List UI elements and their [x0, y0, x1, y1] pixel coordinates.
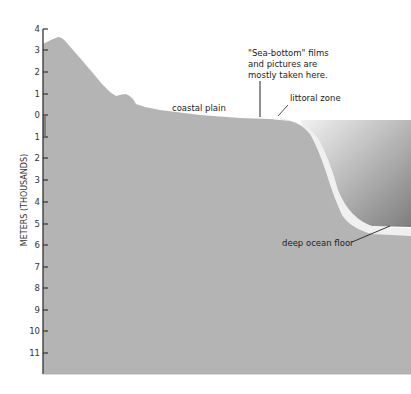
label-deep-ocean-floor: deep ocean floor — [282, 238, 354, 248]
svg-text:10: 10 — [29, 326, 40, 336]
label-coastal-plain: coastal plain — [172, 103, 226, 113]
svg-text:7: 7 — [35, 262, 40, 272]
label-sea-bottom-1: "Sea-bottom" films — [248, 48, 329, 58]
ocean-profile-diagram: 4 3 2 1 0 1 2 3 4 5 6 7 8 9 10 11 METERS… — [0, 0, 411, 394]
label-sea-bottom-2: and pictures are — [248, 59, 317, 69]
y-axis-tick-labels: 4 3 2 1 0 1 2 3 4 5 6 7 8 9 10 11 — [29, 24, 40, 358]
svg-text:5: 5 — [35, 219, 40, 229]
svg-text:3: 3 — [35, 175, 40, 185]
label-littoral-zone: littoral zone — [290, 93, 341, 103]
littoral-pointer-line — [278, 105, 288, 116]
svg-text:4: 4 — [35, 197, 40, 207]
svg-text:2: 2 — [35, 67, 40, 77]
label-sea-bottom-3: mostly taken here. — [248, 70, 328, 80]
svg-text:4: 4 — [35, 24, 40, 34]
svg-text:1: 1 — [35, 89, 40, 99]
svg-text:9: 9 — [35, 305, 40, 315]
svg-text:1: 1 — [35, 132, 40, 142]
svg-text:6: 6 — [35, 240, 40, 250]
svg-text:3: 3 — [35, 45, 40, 55]
svg-text:8: 8 — [35, 283, 40, 293]
svg-text:0: 0 — [35, 110, 40, 120]
svg-text:11: 11 — [29, 348, 40, 358]
y-axis-title: METERS (THOUSANDS) — [20, 154, 29, 246]
svg-text:2: 2 — [35, 153, 40, 163]
